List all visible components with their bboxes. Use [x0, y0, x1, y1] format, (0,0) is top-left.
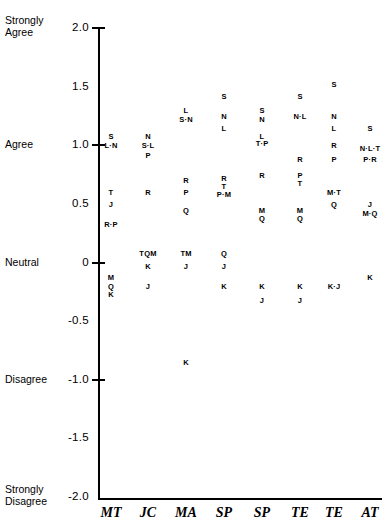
data-point: R·P — [104, 219, 118, 228]
data-point: Q — [331, 199, 337, 208]
data-point: N — [331, 111, 337, 120]
y-axis-tick-label: -1.5 — [19, 431, 89, 443]
data-point: T — [298, 178, 303, 187]
data-point: N — [221, 111, 227, 120]
data-point: K — [367, 272, 373, 281]
data-point: K — [221, 281, 227, 290]
data-point: J — [368, 199, 372, 208]
data-point: Q — [259, 213, 265, 222]
data-point: P — [183, 188, 188, 197]
y-axis-anchor-label: Neutral — [5, 257, 67, 269]
data-point: R — [183, 176, 189, 185]
y-axis-tick-label: 0.5 — [19, 197, 89, 209]
x-axis-category-label: AT — [361, 505, 378, 521]
x-axis-category-label: SP — [254, 505, 270, 521]
y-axis-tick — [92, 144, 105, 146]
data-point: L — [332, 123, 337, 132]
data-point: TM — [180, 249, 191, 258]
data-point: R — [145, 188, 151, 197]
data-point: K·J — [328, 281, 341, 290]
data-point: L — [222, 123, 227, 132]
data-point: R — [259, 170, 265, 179]
data-point: M·Q — [362, 209, 377, 218]
data-point: J — [184, 262, 188, 271]
data-point: N — [145, 131, 151, 140]
data-point: J — [260, 296, 264, 305]
data-point: P — [331, 155, 336, 164]
data-point: Q — [221, 249, 227, 258]
data-point: N·L — [293, 111, 306, 120]
data-point: M·T — [327, 188, 341, 197]
data-point: J — [222, 262, 226, 271]
data-point: K — [259, 281, 265, 290]
y-axis-tick-label: 1.5 — [19, 80, 89, 92]
y-axis-anchor-label: Strongly Agree — [5, 15, 67, 38]
data-point: R — [297, 155, 303, 164]
data-point: S — [331, 80, 336, 89]
data-point: Q — [297, 213, 303, 222]
data-point: S·L — [142, 141, 155, 150]
y-axis-tick-label: -0.5 — [19, 314, 89, 326]
data-point: TQM — [139, 249, 156, 258]
data-point: N — [259, 115, 265, 124]
data-point: T — [109, 188, 114, 197]
data-point: R — [331, 141, 337, 150]
data-point: Q — [183, 205, 189, 214]
data-point: S — [297, 92, 302, 101]
data-point: L·N — [104, 141, 117, 150]
x-axis-category-label: TE — [291, 505, 309, 521]
data-point: S·N — [179, 115, 193, 124]
scatter-chart: 2.01.51.00.50-0.5-1.0-1.5-2.0 Strongly A… — [0, 0, 384, 527]
data-point: K — [297, 281, 303, 290]
y-axis-anchor-label: Agree — [5, 139, 67, 151]
y-axis-anchor-label: Disagree — [5, 374, 67, 386]
data-point: P·R — [363, 155, 377, 164]
data-point: J — [109, 199, 113, 208]
x-axis-category-label: MA — [175, 505, 197, 521]
y-axis-anchor-label: Strongly Disagree — [5, 484, 67, 507]
data-point: S — [259, 106, 264, 115]
data-point: T·P — [256, 138, 269, 147]
data-point: P — [145, 150, 150, 159]
x-axis-category-label: SP — [216, 505, 232, 521]
x-axis-category-label: TE — [325, 505, 343, 521]
data-point: S — [221, 92, 226, 101]
data-point: L — [184, 106, 189, 115]
y-axis-tick — [92, 262, 105, 264]
data-point: S — [108, 131, 113, 140]
x-axis-category-label: MT — [101, 505, 122, 521]
y-axis-tick — [92, 27, 105, 29]
data-point: K — [183, 358, 189, 367]
data-point: N·L·T — [360, 143, 381, 152]
data-point: K — [108, 290, 114, 299]
y-axis-tick — [92, 379, 105, 381]
data-point: J — [146, 281, 150, 290]
data-point: S — [367, 123, 372, 132]
x-axis-line — [98, 498, 382, 500]
data-point: J — [298, 296, 302, 305]
data-point: K — [145, 262, 151, 271]
data-point: P·M — [217, 190, 231, 199]
y-axis-line — [98, 27, 100, 500]
data-point: M — [108, 272, 114, 281]
x-axis-category-label: JC — [140, 505, 156, 521]
